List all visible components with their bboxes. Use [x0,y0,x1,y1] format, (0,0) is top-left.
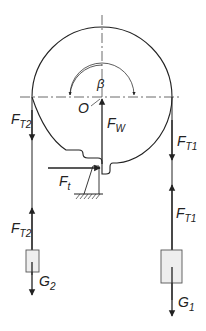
g2-label: G2 [39,273,56,292]
ft2-bottom-label: FT2 [11,220,32,239]
ft2-top-label: FT2 [11,111,32,130]
angle-beta-label: β [96,76,105,91]
ft1-bottom-label: FT1 [176,205,196,224]
fw-label: FW [107,115,127,134]
ground-hatch [76,194,100,199]
ft1-top-label: FT1 [177,133,197,152]
bearing-support [84,166,99,194]
ft-label: Ft [59,173,72,192]
pulley-diagram: β O FW FT2 FT1 Ft FT2 G2 FT1 G1 [0,0,206,331]
center-o-label: O [78,100,89,116]
g1-label: G1 [178,294,194,313]
